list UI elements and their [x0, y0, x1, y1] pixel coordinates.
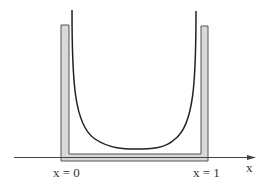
well-walls: [61, 25, 208, 161]
axis-label-x: x: [246, 160, 253, 175]
wavefunction-curve: [72, 10, 196, 149]
label-x-equals-0: x = 0: [53, 165, 80, 180]
square-well-diagram: x = 0 x = 1 x: [0, 0, 268, 183]
label-x-equals-1: x = 1: [193, 165, 220, 180]
